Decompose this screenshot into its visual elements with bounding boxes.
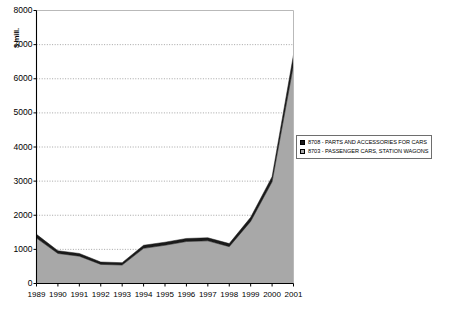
legend-item[interactable]: 8708 - PARTS AND ACCESSORIES FOR CARS [300, 138, 428, 147]
area-chart: $ mill. 01000200030004000500060007000800… [0, 0, 457, 311]
legend-label-parts: 8708 - PARTS AND ACCESSORIES FOR CARS [308, 138, 427, 147]
legend-swatch-parts-icon [300, 140, 305, 145]
legend-label-cars: 8703 - PASSENGER CARS, STATION WAGONS [308, 147, 428, 156]
legend-item[interactable]: 8703 - PASSENGER CARS, STATION WAGONS [300, 147, 428, 156]
area-series-passenger-cars [37, 65, 294, 283]
legend-swatch-cars-icon [300, 149, 305, 154]
chart-legend: 8708 - PARTS AND ACCESSORIES FOR CARS 87… [296, 135, 432, 159]
